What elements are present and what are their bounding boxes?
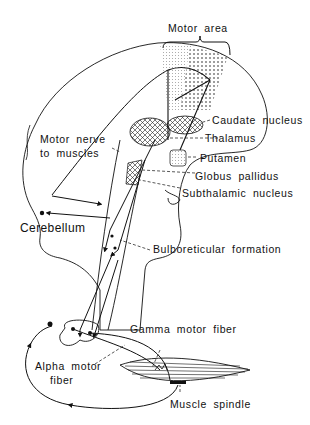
label-globus-pallidus: Globus pallidus (195, 170, 279, 182)
label-caudate-nucleus: Caudate nucleus (212, 114, 303, 126)
label-motor-nerve-line2: to muscles (40, 147, 99, 159)
cerebellum-to-tract (52, 196, 100, 204)
descending-path-1 (105, 140, 155, 250)
label-alpha-motor-line2: fiber (50, 374, 73, 386)
label-gamma-motor-fiber: Gamma motor fiber (130, 323, 237, 335)
muscle-outline (120, 358, 250, 381)
thalamus (130, 118, 170, 146)
muscle-spindle (170, 381, 186, 384)
label-cerebellum: Cerebellum (20, 222, 85, 234)
label-alpha-motor-line1: Alpha motor (35, 360, 101, 372)
label-subthalamic-nucleus: Subthalamic nucleus (182, 187, 293, 199)
putamen (170, 150, 186, 166)
spinal-tract-right (108, 175, 140, 330)
label-motor-nerve-line1: Motor nerve (40, 133, 106, 145)
label-thalamus: Thalamus (205, 132, 256, 144)
label-bulboreticular-formation: Bulboreticular formation (153, 243, 281, 255)
spinal-tract-left (92, 140, 120, 330)
label-motor-area: Motor area (168, 22, 228, 34)
caudate-nucleus (167, 116, 203, 134)
subthalamic-loop (165, 190, 180, 204)
label-muscle-spindle: Muscle spindle (170, 398, 251, 410)
tract-to-cerebellum (48, 213, 110, 218)
cerebellum-node (40, 211, 44, 215)
label-putamen: Putamen (200, 152, 246, 164)
